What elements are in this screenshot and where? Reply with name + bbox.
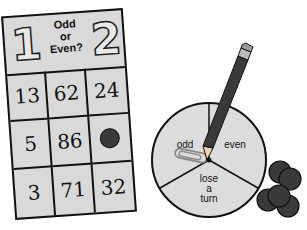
spinner-label-lose-a-turn: lose a turn [192, 174, 226, 204]
spinner-label-even: even [220, 140, 250, 150]
spinner-wheel[interactable] [0, 0, 307, 230]
spinner-label-odd: odd [170, 140, 200, 150]
lose-line-3: turn [192, 194, 226, 204]
